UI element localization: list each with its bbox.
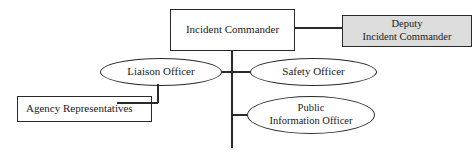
connector-trunk-to-pio (232, 114, 247, 116)
connector-command-staff-trunk (231, 50, 233, 148)
liaison-officer-label: Liaison Officer (127, 65, 194, 78)
agency-representatives-label: Agency Representatives (26, 102, 133, 115)
safety-officer-label: Safety Officer (282, 65, 344, 78)
node-safety-officer: Safety Officer (250, 58, 377, 86)
pio-label-line1: Public (298, 102, 325, 115)
org-chart-canvas: Incident Commander Deputy Incident Comma… (0, 0, 475, 154)
incident-commander-label: Incident Commander (186, 23, 279, 36)
node-agency-representatives: Agency Representatives (17, 96, 152, 122)
node-incident-commander: Incident Commander (170, 9, 295, 51)
node-deputy-incident-commander: Deputy Incident Commander (342, 15, 472, 47)
connector-ic-to-deputy (295, 27, 342, 29)
connector-liaison-safety-trunk (222, 71, 250, 73)
node-liaison-officer: Liaison Officer (100, 58, 222, 86)
deputy-label-line2: Incident Commander (363, 31, 452, 44)
connector-to-agency-representatives (117, 102, 158, 104)
node-public-information-officer: Public Information Officer (247, 96, 375, 134)
deputy-label-line1: Deputy (392, 18, 423, 31)
connector-liaison-down (157, 84, 159, 103)
pio-label-line2: Information Officer (270, 115, 353, 128)
